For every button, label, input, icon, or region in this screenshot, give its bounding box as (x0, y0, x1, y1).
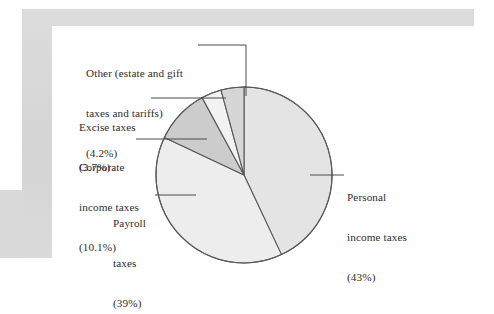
label-personal-income-taxes: Personal income taxes (43%) (347, 164, 407, 311)
label-payroll-line2: taxes (113, 257, 146, 270)
label-other-line1: Other (estate and gift (86, 67, 183, 80)
label-payroll-taxes: Payroll taxes (39%) (113, 190, 146, 314)
label-personal-line1: Personal (347, 191, 407, 204)
label-personal-percent: (43%) (347, 271, 407, 284)
label-corporate-line1: Corporate (79, 161, 139, 174)
label-payroll-percent: (39%) (113, 297, 146, 310)
label-payroll-line1: Payroll (113, 217, 146, 230)
label-personal-line2: income taxes (347, 231, 407, 244)
label-excise-line1: Excise taxes (79, 121, 136, 134)
